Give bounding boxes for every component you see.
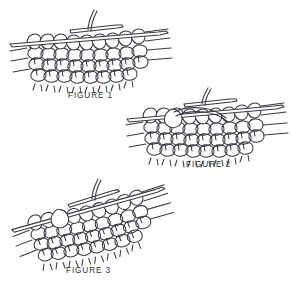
yarn-leaders-left — [13, 230, 37, 257]
right-needle — [184, 99, 237, 107]
yarn-leaders-left — [10, 48, 30, 72]
fabric-group-tilted — [8, 180, 180, 278]
yarn-leaders-left — [126, 122, 146, 147]
knitting-diagram: FIGURE 1 — [0, 0, 291, 296]
figure-3-illustration — [8, 178, 183, 264]
figure-1-caption: FIGURE 1 — [68, 91, 113, 100]
figure-1-illustration — [8, 8, 178, 94]
figure-2-illustration — [126, 88, 291, 166]
fabric-mesh-rows — [28, 45, 148, 93]
left-needle — [9, 187, 167, 233]
right-needle — [70, 25, 123, 33]
figure-3-caption: FIGURE 3 — [66, 266, 111, 275]
figure-2-caption: FIGURE 2 — [186, 160, 231, 169]
